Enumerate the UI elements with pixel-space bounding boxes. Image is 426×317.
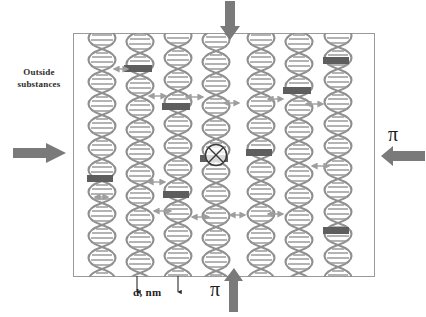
top-inflow-arrow: [219, 1, 241, 41]
bottom-inflow-arrow: [223, 268, 245, 313]
blocked-transport-symbol: [203, 142, 229, 168]
pi-label-right: π: [388, 124, 398, 144]
outside-substances-line-1: Outside: [8, 66, 70, 78]
figure-canvas: Outside substances π π d, nm: [0, 0, 426, 317]
outside-substances-line-2: substances: [8, 78, 70, 90]
right-inflow-arrow: [381, 145, 426, 167]
pi-label-bottom: π: [210, 279, 220, 299]
left-inflow-arrow: [13, 142, 67, 164]
dimension-label: d, nm: [133, 286, 161, 298]
outside-substances-label: Outside substances: [8, 66, 70, 90]
